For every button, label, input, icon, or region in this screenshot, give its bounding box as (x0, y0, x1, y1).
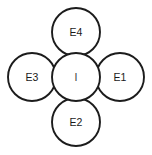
node-left-label: E3 (25, 71, 38, 83)
node-center-label: I (75, 71, 78, 83)
node-bottom[interactable]: E2 (52, 98, 100, 146)
node-cluster-diagram: E4 E3 E1 E2 I (0, 0, 152, 155)
diagram-canvas: E4 E3 E1 E2 I (0, 0, 152, 155)
node-right[interactable]: E1 (96, 53, 144, 101)
node-right-label: E1 (113, 71, 126, 83)
node-bottom-label: E2 (69, 116, 82, 128)
node-left[interactable]: E3 (8, 53, 56, 101)
node-center[interactable]: I (52, 53, 100, 101)
node-top[interactable]: E4 (52, 8, 100, 56)
node-top-label: E4 (69, 26, 82, 38)
